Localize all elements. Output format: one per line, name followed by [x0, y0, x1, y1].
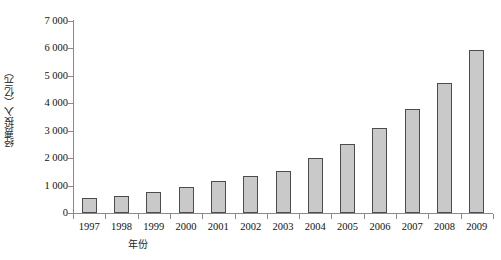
- bar: [437, 83, 452, 213]
- x-tick-mark: [299, 214, 300, 219]
- y-tick-label: 0: [22, 208, 68, 218]
- x-axis-title: 年份: [73, 236, 203, 251]
- x-tick-mark: [235, 214, 236, 219]
- x-tick-mark: [73, 214, 74, 219]
- bar: [179, 187, 194, 213]
- bar-chart-figure: 经费投入（亿元） 01 0002 0003 0004 0005 0006 000…: [0, 0, 501, 260]
- x-tick-label: 2000: [170, 221, 202, 233]
- bar: [114, 196, 129, 213]
- y-tick-label: 6 000: [22, 43, 68, 53]
- bar: [405, 109, 420, 213]
- y-tick-label: 5 000: [22, 71, 68, 81]
- y-tick-label: 4 000: [22, 98, 68, 108]
- x-tick-label: 2008: [428, 221, 460, 233]
- x-tick-label: 2009: [461, 221, 493, 233]
- bar: [211, 181, 226, 213]
- x-tick-label: 2006: [364, 221, 396, 233]
- x-axis-line: [73, 213, 493, 214]
- x-tick-label: 1997: [73, 221, 105, 233]
- bar: [82, 198, 97, 213]
- x-tick-label: 2005: [331, 221, 363, 233]
- bar: [340, 144, 355, 213]
- x-tick-mark: [138, 214, 139, 219]
- x-tick-mark: [331, 214, 332, 219]
- x-tick-mark: [170, 214, 171, 219]
- x-tick-label: 2002: [235, 221, 267, 233]
- x-tick-label: 1999: [138, 221, 170, 233]
- y-tick-label: 7 000: [22, 16, 68, 26]
- y-axis-tick-labels: 01 0002 0003 0004 0005 0006 0007 000: [20, 0, 68, 260]
- x-tick-label: 2004: [299, 221, 331, 233]
- x-tick-mark: [396, 214, 397, 219]
- x-tick-label: 1998: [105, 221, 137, 233]
- y-tick-label: 1 000: [22, 181, 68, 191]
- x-tick-mark: [493, 214, 494, 219]
- bar: [469, 50, 484, 213]
- x-tick-mark: [461, 214, 462, 219]
- bars-layer: [73, 21, 493, 213]
- y-axis-title-label: 经费投入（亿元）: [2, 67, 17, 147]
- x-tick-label: 2003: [267, 221, 299, 233]
- y-tick-label: 3 000: [22, 126, 68, 136]
- bar: [308, 158, 323, 213]
- y-axis-title: 经费投入（亿元）: [0, 0, 18, 213]
- bar: [276, 171, 291, 214]
- bar: [372, 128, 387, 213]
- bar: [146, 192, 161, 213]
- x-tick-label: 2007: [396, 221, 428, 233]
- x-tick-mark: [428, 214, 429, 219]
- x-tick-mark: [202, 214, 203, 219]
- y-tick-label: 2 000: [22, 153, 68, 163]
- x-tick-mark: [105, 214, 106, 219]
- x-axis-tick-labels: 1997199819992000200120022003200420052006…: [73, 221, 493, 235]
- bar: [243, 176, 258, 213]
- x-tick-label: 2001: [202, 221, 234, 233]
- x-tick-mark: [364, 214, 365, 219]
- x-tick-mark: [267, 214, 268, 219]
